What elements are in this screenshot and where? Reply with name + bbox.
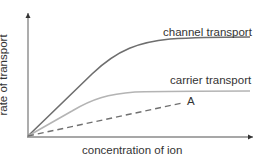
x-axis-label: concentration of ion (82, 145, 182, 157)
channel-transport-line (28, 37, 250, 136)
line-a-dashed (28, 103, 182, 136)
channel-transport-label: channel transport (163, 27, 252, 39)
carrier-transport-label: carrier transport (170, 75, 251, 87)
line-a-label: A (187, 96, 195, 108)
y-axis-label: rate of transport (0, 34, 9, 115)
